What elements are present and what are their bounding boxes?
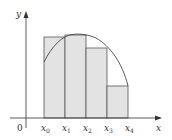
rectangle-4	[107, 86, 128, 118]
x-axis-arrow-icon	[155, 116, 162, 121]
riemann-sum-diagram: y x 0 x0 x1 x2 x3 x4	[0, 0, 172, 140]
partition-labels: x0 x1 x2 x3 x4	[41, 123, 134, 134]
partition-label-x2: x2	[83, 123, 92, 134]
x-axis-label: x	[156, 123, 161, 133]
origin-label: 0	[17, 123, 23, 133]
partition-label-x1: x1	[62, 123, 71, 134]
rectangle-3	[86, 48, 107, 118]
rectangle-1	[44, 37, 65, 118]
partition-label-x4: x4	[125, 123, 134, 134]
rectangle-2	[65, 35, 86, 118]
partition-label-x0: x0	[41, 123, 50, 134]
partition-label-x3: x3	[104, 123, 113, 134]
y-axis-label: y	[15, 9, 22, 19]
rectangles	[44, 35, 128, 118]
y-axis-arrow-icon	[24, 11, 29, 18]
